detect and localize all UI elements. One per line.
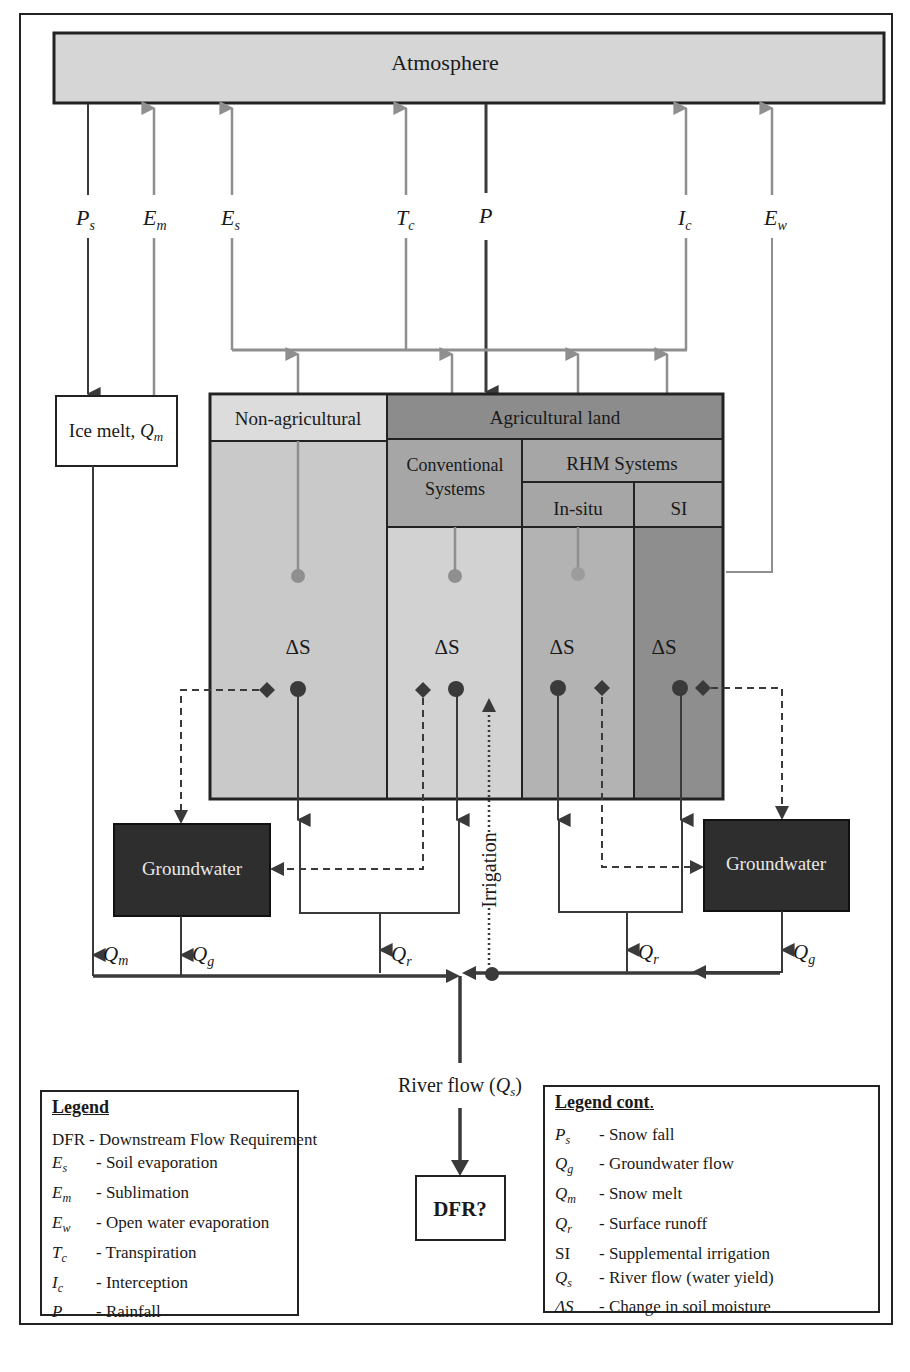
legend-item: Em- Sublimation bbox=[52, 1181, 287, 1211]
agricultural-land-label: Agricultural land bbox=[490, 407, 621, 428]
delta-s-conventional: ΔS bbox=[434, 635, 459, 659]
legend-symbol: Ps bbox=[555, 1123, 599, 1153]
legend-item: Qs- River flow (water yield) bbox=[555, 1266, 868, 1296]
legend-description: - Downstream Flow Requirement bbox=[89, 1128, 317, 1152]
legend-symbol: Ew bbox=[52, 1211, 96, 1241]
legend-description: - Interception bbox=[96, 1271, 188, 1301]
non-agricultural-label: Non-agricultural bbox=[235, 408, 362, 429]
legend-description: - Surface runoff bbox=[599, 1212, 707, 1242]
delta-s-in-situ: ΔS bbox=[549, 635, 574, 659]
legend-description: - Rainfall bbox=[96, 1300, 161, 1324]
groundwater-left-label: Groundwater bbox=[142, 858, 243, 879]
legend-symbol: Es bbox=[52, 1151, 96, 1181]
legend-symbol: ΔS bbox=[555, 1295, 599, 1319]
legend-item: DFR- Downstream Flow Requirement bbox=[52, 1128, 287, 1152]
legend-description: - Sublimation bbox=[96, 1181, 189, 1211]
si-label: SI bbox=[671, 498, 688, 519]
legend-list: DFR- Downstream Flow RequirementEs- Soil… bbox=[52, 1128, 287, 1324]
legend-description: - Soil evaporation bbox=[96, 1151, 218, 1181]
legend-symbol: P bbox=[52, 1300, 96, 1324]
legend-item: Qg- Groundwater flow bbox=[555, 1152, 868, 1182]
legend-item: Ic- Interception bbox=[52, 1271, 287, 1301]
legend-symbol: Qm bbox=[555, 1182, 599, 1212]
delta-s-si: ΔS bbox=[651, 635, 676, 659]
legend-cont-list: Ps- Snow fallQg- Groundwater flowQm- Sno… bbox=[555, 1123, 868, 1319]
legend-symbol: Qs bbox=[555, 1266, 599, 1296]
legend-symbol: Qr bbox=[555, 1212, 599, 1242]
legend-description: - Open water evaporation bbox=[96, 1211, 269, 1241]
legend-item: Ps- Snow fall bbox=[555, 1123, 868, 1153]
groundwater-right-label: Groundwater bbox=[726, 853, 827, 874]
legend-box: Legend DFR- Downstream Flow RequirementE… bbox=[40, 1090, 299, 1316]
legend-symbol: Ic bbox=[52, 1271, 96, 1301]
legend-symbol: DFR bbox=[52, 1128, 85, 1152]
legend-description: - River flow (water yield) bbox=[599, 1266, 774, 1296]
legend-symbol: Tc bbox=[52, 1241, 96, 1271]
river-flow-label: River flow (Qs) bbox=[398, 1074, 522, 1099]
legend-item: ΔS- Change in soil moisture bbox=[555, 1295, 868, 1319]
atmosphere-label: Atmosphere bbox=[391, 50, 499, 75]
legend-item: Tc- Transpiration bbox=[52, 1241, 287, 1271]
legend-cont-title: Legend cont. bbox=[555, 1091, 868, 1115]
legend-description: - Snow fall bbox=[599, 1123, 675, 1153]
p-label: P bbox=[478, 203, 492, 228]
rhm-systems-label: RHM Systems bbox=[566, 453, 677, 474]
legend-item: Es- Soil evaporation bbox=[52, 1151, 287, 1181]
conventional-line-1: Conventional bbox=[407, 455, 504, 475]
ice-melt-label: Ice melt, Qm bbox=[69, 420, 163, 444]
legend-item: Qm- Snow melt bbox=[555, 1182, 868, 1212]
legend-symbol: SI bbox=[555, 1242, 599, 1266]
legend-symbol: Em bbox=[52, 1181, 96, 1211]
legend-item: SI- Supplemental irrigation bbox=[555, 1242, 868, 1266]
legend-description: - Supplemental irrigation bbox=[599, 1242, 770, 1266]
irrigation-label: Irrigation bbox=[478, 832, 501, 908]
delta-s-non-ag: ΔS bbox=[285, 635, 310, 659]
legend-symbol: Qg bbox=[555, 1152, 599, 1182]
si-body bbox=[634, 527, 723, 799]
legend-description: - Snow melt bbox=[599, 1182, 682, 1212]
dfr-label: DFR? bbox=[433, 1197, 487, 1221]
legend-description: - Change in soil moisture bbox=[599, 1295, 771, 1319]
legend-description: - Transpiration bbox=[96, 1241, 197, 1271]
legend-cont-box: Legend cont. Ps- Snow fallQg- Groundwate… bbox=[543, 1085, 880, 1313]
legend-item: Ew- Open water evaporation bbox=[52, 1211, 287, 1241]
legend-description: - Groundwater flow bbox=[599, 1152, 734, 1182]
in-situ-label: In-situ bbox=[553, 498, 603, 519]
legend-item: Qr- Surface runoff bbox=[555, 1212, 868, 1242]
legend-item: P- Rainfall bbox=[52, 1300, 287, 1324]
legend-title: Legend bbox=[52, 1096, 287, 1120]
